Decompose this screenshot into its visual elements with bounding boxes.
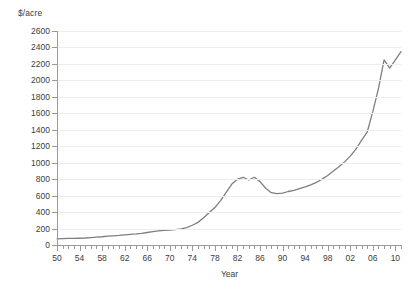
- plot-area: [57, 31, 401, 245]
- x-axis-minor-tick: [96, 246, 97, 249]
- y-axis-tick: [52, 113, 57, 114]
- x-axis-minor-tick: [266, 246, 267, 249]
- x-axis-minor-tick: [345, 246, 346, 249]
- x-axis-major-tick: [215, 246, 216, 251]
- x-axis-major-tick: [260, 246, 261, 251]
- x-axis-minor-tick: [299, 246, 300, 249]
- x-axis-major-tick: [328, 246, 329, 251]
- x-axis-major-tick: [80, 246, 81, 251]
- x-axis-minor-tick: [390, 246, 391, 249]
- x-axis-minor-tick: [333, 246, 334, 249]
- y-axis-tick-label: 2200: [6, 60, 50, 69]
- x-axis-minor-tick: [204, 246, 205, 249]
- x-axis-minor-tick: [159, 246, 160, 249]
- x-axis-minor-tick: [367, 246, 368, 249]
- y-axis-tick-label: 400: [6, 208, 50, 217]
- x-axis-minor-tick: [175, 246, 176, 249]
- y-axis-tick-label: 1800: [6, 93, 50, 102]
- x-axis-tick-label: 02: [338, 254, 362, 263]
- x-axis-title: Year: [57, 269, 402, 279]
- x-axis-tick-label: 94: [293, 254, 317, 263]
- x-axis-major-tick: [192, 246, 193, 251]
- x-axis-minor-tick: [113, 246, 114, 249]
- y-axis-tick: [52, 47, 57, 48]
- y-axis-tick: [52, 64, 57, 65]
- x-axis-major-tick: [350, 246, 351, 251]
- y-axis-tick: [52, 212, 57, 213]
- y-axis-tick-label: 1600: [6, 109, 50, 118]
- y-axis-tick: [52, 130, 57, 131]
- x-axis-minor-tick: [249, 246, 250, 249]
- y-axis-tick: [52, 97, 57, 98]
- y-axis-tick-label: 0: [6, 241, 50, 250]
- x-axis-tick-label: 58: [90, 254, 114, 263]
- x-axis-minor-tick: [378, 246, 379, 249]
- x-axis-minor-tick: [164, 246, 165, 249]
- x-axis-tick-label: 62: [113, 254, 137, 263]
- x-axis-minor-tick: [221, 246, 222, 249]
- x-axis-minor-tick: [153, 246, 154, 249]
- x-axis-minor-tick: [198, 246, 199, 249]
- y-axis-tick-label: 1200: [6, 142, 50, 151]
- gridline-y: [57, 130, 401, 131]
- x-axis-minor-tick: [243, 246, 244, 249]
- y-axis-tick-label: 2400: [6, 43, 50, 52]
- x-axis-minor-tick: [384, 246, 385, 249]
- x-axis-minor-tick: [254, 246, 255, 249]
- x-axis-major-tick: [102, 246, 103, 251]
- x-axis-major-tick: [57, 246, 58, 251]
- y-axis-tick-label: 1400: [6, 126, 50, 135]
- x-axis-tick-label: 06: [361, 254, 385, 263]
- gridline-y: [57, 97, 401, 98]
- x-axis-tick-label: 70: [158, 254, 182, 263]
- gridline-y: [57, 196, 401, 197]
- x-axis-minor-tick: [311, 246, 312, 249]
- y-axis-tick-label: 2000: [6, 76, 50, 85]
- x-axis-minor-tick: [232, 246, 233, 249]
- x-axis-tick-label: 66: [135, 254, 159, 263]
- x-axis-minor-tick: [209, 246, 210, 249]
- x-axis-major-tick: [170, 246, 171, 251]
- x-axis-tick-label: 78: [203, 254, 227, 263]
- gridline-y: [57, 113, 401, 114]
- x-axis-major-tick: [147, 246, 148, 251]
- gridline-y: [57, 80, 401, 81]
- x-axis-minor-tick: [85, 246, 86, 249]
- x-axis-minor-tick: [63, 246, 64, 249]
- farmland-value-line-chart: $/acre 020040060080010001200140016001800…: [0, 0, 419, 291]
- x-axis-minor-tick: [119, 246, 120, 249]
- x-axis-tick-label: 90: [271, 254, 295, 263]
- x-axis-minor-tick: [362, 246, 363, 249]
- x-axis-minor-tick: [316, 246, 317, 249]
- y-axis-tick: [52, 80, 57, 81]
- x-axis-major-tick: [305, 246, 306, 251]
- x-axis-major-tick: [125, 246, 126, 251]
- x-axis-minor-tick: [271, 246, 272, 249]
- x-axis-tick-label: 86: [248, 254, 272, 263]
- x-axis-minor-tick: [181, 246, 182, 249]
- y-axis-tick-label: 2600: [6, 27, 50, 36]
- y-axis-tick-label: 800: [6, 175, 50, 184]
- x-axis-major-tick: [283, 246, 284, 251]
- y-axis-tick: [52, 229, 57, 230]
- x-axis-major-tick: [395, 246, 396, 251]
- x-axis-minor-tick: [226, 246, 227, 249]
- gridline-y: [57, 146, 401, 147]
- x-axis-minor-tick: [108, 246, 109, 249]
- x-axis-major-tick: [237, 246, 238, 251]
- x-axis-minor-tick: [322, 246, 323, 249]
- x-axis-minor-tick: [401, 246, 402, 249]
- x-axis-minor-tick: [74, 246, 75, 249]
- x-axis-minor-tick: [91, 246, 92, 249]
- y-axis-tick-labels: 0200400600800100012001400160018002000220…: [0, 0, 50, 291]
- x-axis-tick-label: 74: [180, 254, 204, 263]
- gridline-y: [57, 179, 401, 180]
- gridline-y: [57, 64, 401, 65]
- gridline-y: [57, 229, 401, 230]
- x-axis-tick-label: 82: [225, 254, 249, 263]
- x-axis-minor-tick: [136, 246, 137, 249]
- x-axis-minor-tick: [288, 246, 289, 249]
- y-axis-tick-label: 600: [6, 192, 50, 201]
- y-axis-tick-label: 1000: [6, 159, 50, 168]
- x-axis-minor-tick: [356, 246, 357, 249]
